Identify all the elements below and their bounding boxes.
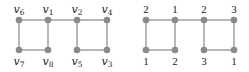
left-graph-nodes: v6v1v2v4v7v8v5v3 bbox=[14, 3, 113, 69]
right-node-label-d: 3 bbox=[231, 3, 237, 15]
left-node-label-v7: v7 bbox=[14, 55, 25, 69]
right-node-h bbox=[231, 47, 238, 54]
right-node-label-a: 2 bbox=[143, 3, 149, 15]
right-graph-edges bbox=[146, 20, 234, 50]
left-node-v2 bbox=[74, 17, 81, 24]
right-node-label-b: 1 bbox=[172, 3, 178, 15]
right-node-label-f: 2 bbox=[172, 55, 178, 67]
right-node-c bbox=[201, 17, 208, 24]
left-node-v1 bbox=[45, 17, 52, 24]
right-node-g bbox=[201, 47, 208, 54]
left-node-label-v2: v2 bbox=[72, 3, 83, 17]
left-node-label-v5: v5 bbox=[72, 55, 83, 69]
right-node-label-e: 1 bbox=[143, 55, 149, 67]
left-node-v4 bbox=[104, 17, 111, 24]
left-node-label-v4: v4 bbox=[102, 3, 113, 17]
right-node-a bbox=[143, 17, 150, 24]
left-node-v6 bbox=[16, 17, 23, 24]
right-node-label-g: 3 bbox=[201, 55, 207, 67]
left-node-v3 bbox=[104, 47, 111, 54]
right-node-d bbox=[231, 17, 238, 24]
left-node-label-v6: v6 bbox=[14, 3, 25, 17]
right-node-b bbox=[172, 17, 179, 24]
right-node-f bbox=[172, 47, 179, 54]
left-node-v7 bbox=[16, 47, 23, 54]
left-node-label-v8: v8 bbox=[43, 55, 54, 69]
right-node-label-h: 1 bbox=[231, 55, 237, 67]
left-node-v8 bbox=[45, 47, 52, 54]
left-node-label-v3: v3 bbox=[102, 55, 113, 69]
graph-diagram: v6v1v2v4v7v8v5v3 21231231 bbox=[0, 0, 249, 72]
right-node-e bbox=[143, 47, 150, 54]
left-node-v5 bbox=[74, 47, 81, 54]
left-graph-edges bbox=[19, 20, 107, 50]
right-node-label-c: 2 bbox=[201, 3, 207, 15]
left-node-label-v1: v1 bbox=[43, 3, 54, 17]
right-graph-nodes: 21231231 bbox=[143, 3, 238, 67]
